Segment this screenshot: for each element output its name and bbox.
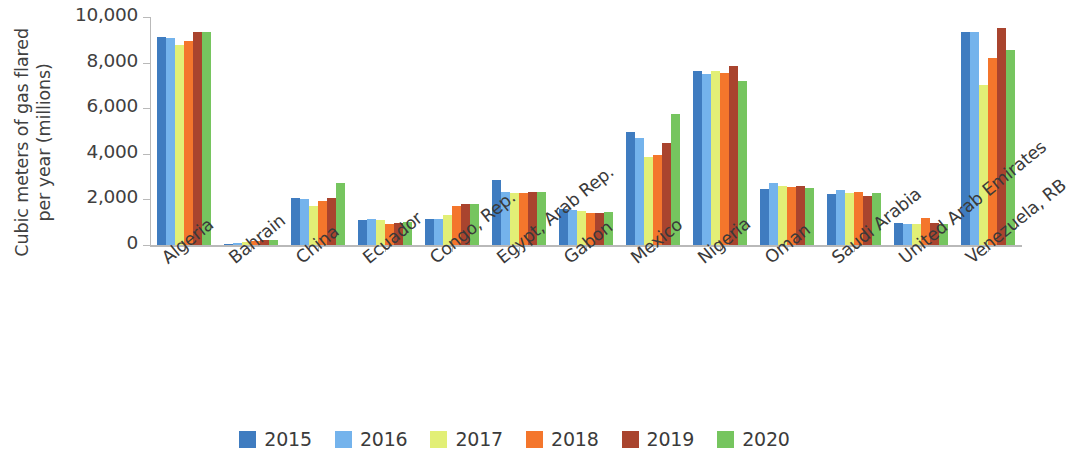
bar xyxy=(997,28,1006,245)
legend-label: 2016 xyxy=(360,428,408,450)
bar-group xyxy=(687,17,754,245)
y-axis-tick-label: 8,000 xyxy=(87,50,138,71)
bar xyxy=(166,38,175,245)
bar xyxy=(988,58,997,245)
legend-swatch-icon xyxy=(335,431,352,448)
bar-group xyxy=(150,17,217,245)
bar xyxy=(894,223,903,245)
legend-item-2017[interactable]: 2017 xyxy=(430,428,503,450)
bar-group-bars xyxy=(754,17,821,245)
legend-label: 2015 xyxy=(264,428,312,450)
bar xyxy=(979,85,988,245)
bar xyxy=(184,41,193,245)
bar-group xyxy=(284,17,351,245)
bar xyxy=(157,37,166,245)
y-axis-tick-label: 10,000 xyxy=(75,4,138,25)
bar-group-bars xyxy=(150,17,217,245)
y-axis-tick-mark xyxy=(143,245,151,246)
legend-label: 2020 xyxy=(742,428,790,450)
bar-group-bars xyxy=(687,17,754,245)
legend-swatch-icon xyxy=(430,431,447,448)
legend-item-2020[interactable]: 2020 xyxy=(717,428,790,450)
legend-item-2019[interactable]: 2019 xyxy=(622,428,695,450)
y-axis-tick-label: 6,000 xyxy=(87,95,138,116)
bar xyxy=(358,220,367,245)
bar xyxy=(693,71,702,245)
legend-item-2015[interactable]: 2015 xyxy=(239,428,312,450)
legend-item-2016[interactable]: 2016 xyxy=(335,428,408,450)
legend-swatch-icon xyxy=(239,431,256,448)
bar xyxy=(202,32,211,245)
bar xyxy=(760,189,769,245)
bar xyxy=(193,32,202,245)
bar-group-bars xyxy=(284,17,351,245)
bar xyxy=(827,194,836,245)
legend-label: 2018 xyxy=(551,428,599,450)
legend-label: 2019 xyxy=(647,428,695,450)
legend-swatch-icon xyxy=(526,431,543,448)
chart-legend: 201520162017201820192020 xyxy=(0,428,1029,450)
legend-label: 2017 xyxy=(455,428,503,450)
bar-group-bars xyxy=(620,17,687,245)
bar xyxy=(702,74,711,245)
bar xyxy=(836,190,845,245)
y-axis-tick-label: 2,000 xyxy=(87,186,138,207)
bar-group xyxy=(754,17,821,245)
y-axis-title: Cubic meters of gas flared per year (mil… xyxy=(11,17,56,267)
bar xyxy=(626,132,635,245)
legend-swatch-icon xyxy=(717,431,734,448)
bar xyxy=(635,138,644,245)
bar xyxy=(769,183,778,245)
y-axis-tick-label: 0 xyxy=(127,232,138,253)
legend-swatch-icon xyxy=(622,431,639,448)
legend-item-2018[interactable]: 2018 xyxy=(526,428,599,450)
bar xyxy=(711,71,720,245)
y-axis-tick-label: 4,000 xyxy=(87,141,138,162)
bar xyxy=(175,45,184,245)
bar xyxy=(291,198,300,245)
bar xyxy=(224,244,233,245)
bar xyxy=(720,73,729,245)
bar-group xyxy=(620,17,687,245)
